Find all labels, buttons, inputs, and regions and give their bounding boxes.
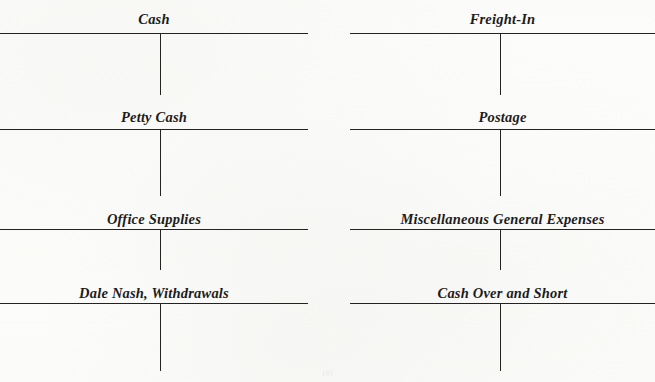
account-title: Petty Cash xyxy=(0,110,308,125)
account-title: Cash xyxy=(0,12,308,27)
page-number: 181 xyxy=(0,369,655,378)
account-stem xyxy=(500,230,501,270)
account-title: Freight-In xyxy=(350,12,655,27)
account-rule xyxy=(350,303,655,304)
account-title: Postage xyxy=(350,110,655,125)
account-title: Cash Over and Short xyxy=(350,286,655,301)
account-title: Office Supplies xyxy=(0,212,308,227)
account-rule xyxy=(0,129,308,130)
account-rule xyxy=(0,229,308,230)
account-rule xyxy=(0,303,308,304)
t-account-worksheet: Cash Freight-In Petty Cash Postage Offic… xyxy=(0,0,655,382)
account-rule xyxy=(0,33,308,34)
account-stem xyxy=(500,34,501,95)
account-title: Dale Nash, Withdrawals xyxy=(0,286,308,301)
account-stem xyxy=(160,34,161,95)
account-stem xyxy=(160,130,161,196)
account-stem xyxy=(160,304,161,371)
account-rule xyxy=(350,129,655,130)
account-stem xyxy=(500,130,501,196)
account-title: Miscellaneous General Expenses xyxy=(350,212,655,227)
account-stem xyxy=(160,230,161,270)
account-rule xyxy=(350,33,655,34)
account-rule xyxy=(350,229,655,230)
account-stem xyxy=(500,304,501,371)
